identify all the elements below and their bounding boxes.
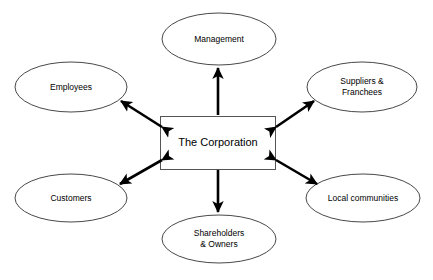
- suppliers-franchees-ellipse: [307, 62, 417, 112]
- stakeholder-diagram: The Corporation Management Employees Sup…: [0, 0, 433, 280]
- connector-corporation-local-communities: [276, 160, 317, 184]
- the-corporation-box: [161, 117, 276, 170]
- connector-corporation-customers: [120, 160, 162, 184]
- customers-ellipse: [15, 174, 127, 222]
- employees-ellipse: [15, 62, 127, 112]
- connector-corporation-employees: [121, 101, 162, 127]
- shareholders-owners-ellipse: [162, 215, 276, 263]
- connector-corporation-suppliers: [276, 101, 314, 127]
- diagram-canvas-svg: [0, 0, 433, 280]
- management-ellipse: [162, 13, 276, 65]
- local-communities-ellipse: [306, 174, 420, 222]
